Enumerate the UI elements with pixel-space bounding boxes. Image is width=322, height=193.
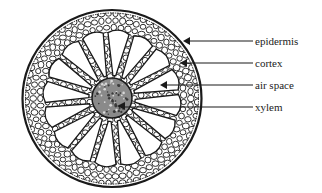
xylem-speckle: [121, 94, 123, 96]
cortex-cell: [180, 92, 186, 99]
xylem-speckle: [112, 103, 113, 104]
xylem-core: [92, 78, 132, 118]
cortex-cell: [83, 161, 89, 167]
cortex-cell: [76, 33, 83, 39]
arrowhead-icon: [183, 37, 190, 45]
xylem-speckle: [99, 86, 101, 88]
cortex-cell: [65, 161, 72, 166]
cortex-cell: [177, 56, 182, 61]
cortex-cell: [188, 102, 194, 108]
cortex-cell: [188, 95, 195, 102]
cortex-cell: [85, 169, 91, 176]
cortex-cell: [127, 171, 132, 177]
cortex-cell: [64, 151, 71, 157]
cortex-cell: [35, 123, 41, 129]
cortex-cell: [140, 168, 147, 173]
cortex-cell: [125, 165, 131, 171]
xylem-speckle: [122, 92, 125, 95]
cortex-cell: [38, 129, 44, 135]
cortex-cell: [37, 103, 44, 108]
xylem-speckle: [115, 109, 117, 111]
cortex-cell: [168, 147, 175, 153]
cortex-cell: [90, 164, 96, 170]
cortex-cell: [84, 22, 91, 27]
root-cross-section-diagram: epidermis cortex air space xylem: [0, 0, 322, 193]
cortex-cell: [177, 120, 183, 125]
cortex-cell: [133, 21, 139, 27]
cortex-cell: [132, 29, 138, 34]
xylem-speckle: [122, 84, 123, 85]
cortex-cell: [24, 106, 30, 112]
cortex-cell: [158, 34, 164, 41]
xylem-speckle: [106, 111, 108, 113]
cortex-cell: [59, 35, 66, 40]
cortex-cell: [23, 99, 30, 105]
xylem-speckle: [103, 111, 105, 113]
cortex-cell: [177, 136, 182, 141]
xylem-speckle: [110, 80, 113, 83]
xylem-speckle: [94, 95, 96, 97]
cortex-cell: [138, 161, 144, 166]
xylem-speckle: [120, 111, 122, 113]
cortex-cell: [38, 61, 44, 68]
xylem-speckle: [98, 103, 100, 105]
xylem-speckle: [112, 83, 114, 85]
cortex-cell: [33, 117, 39, 122]
cortex-cell: [173, 50, 178, 56]
xylem-speckle: [115, 100, 117, 102]
xylem-speckle: [103, 88, 106, 91]
cortex-cell: [38, 95, 43, 101]
cortex-cell: [133, 170, 140, 176]
cortex-cell: [92, 179, 98, 185]
cortex-cell: [31, 103, 37, 109]
xylem-speckle: [123, 98, 125, 100]
cortex-cell: [163, 152, 170, 157]
xylem-speckle: [108, 114, 109, 115]
xylem-speckle: [110, 99, 111, 100]
cortex-cell: [193, 113, 199, 118]
cortex-cell: [182, 123, 189, 129]
xylem-speckle: [101, 83, 103, 85]
cortex-cell: [85, 177, 90, 182]
cortex-cell: [125, 26, 132, 33]
xylem-speckle: [104, 101, 106, 103]
cortex-cell: [42, 136, 47, 141]
xylem-speckle: [108, 109, 109, 110]
cortex-cell: [138, 31, 145, 36]
cortex-cell: [180, 130, 186, 135]
cortex-cell: [58, 147, 65, 152]
cortex-cell: [140, 24, 146, 29]
xylem-speckle: [107, 91, 109, 93]
cortex-cell: [24, 85, 31, 90]
cortex-cell: [151, 38, 157, 43]
cortex-cell: [145, 157, 151, 163]
leader-epidermis: [183, 37, 253, 45]
label-cortex: cortex: [255, 57, 283, 69]
xylem-speckle: [101, 95, 103, 97]
xylem-speckle: [104, 86, 105, 87]
cortex-cell: [40, 75, 47, 80]
cortex-cell: [103, 25, 109, 30]
cortex-cell: [97, 26, 103, 31]
cortex-cell: [146, 27, 152, 33]
cortex-cell: [50, 44, 56, 51]
cortex-cell: [185, 117, 191, 122]
cortex-cell: [43, 68, 50, 73]
cortex-cell: [70, 36, 76, 42]
cortex-cell: [31, 110, 38, 116]
xylem-speckle: [111, 100, 114, 103]
xylem-speckle: [118, 94, 120, 96]
cortex-cell: [118, 166, 123, 171]
cortex-cell: [184, 74, 191, 81]
cortex-cell: [119, 180, 126, 186]
xylem-speckle: [108, 97, 111, 100]
cortex-cell: [173, 65, 180, 71]
xylem-speckle: [107, 94, 110, 97]
xylem-speckle: [98, 91, 101, 94]
cortex-cell: [99, 18, 104, 25]
cortex-cell: [33, 75, 39, 80]
xylem-speckle: [113, 110, 116, 113]
cortex-cell: [91, 13, 98, 18]
cortex-cell: [119, 173, 126, 179]
cortex-cell: [120, 18, 126, 25]
